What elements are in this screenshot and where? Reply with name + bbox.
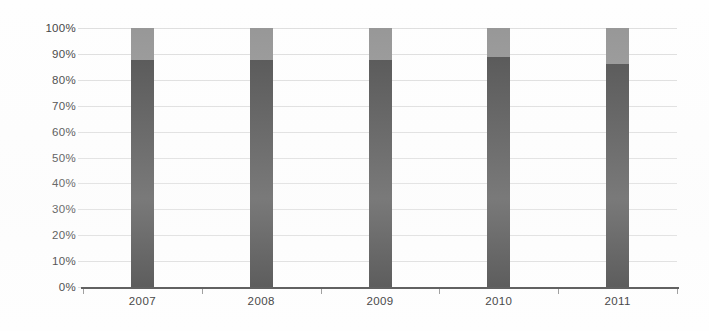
y-axis-tick-label: 80%	[24, 74, 76, 86]
y-axis-tick-label: 0%	[24, 281, 76, 293]
chart-container: 0%10%20%30%40%50%60%70%80%90%100% 200720…	[0, 0, 709, 331]
x-axis-tick	[558, 289, 559, 294]
plot-area	[83, 28, 677, 287]
bar-column	[487, 28, 510, 287]
x-axis-tick	[202, 289, 203, 294]
x-axis-tick-label: 2011	[578, 295, 658, 307]
y-axis-tick-label: 20%	[24, 229, 76, 241]
bar-column	[250, 28, 273, 287]
x-axis-tick	[677, 289, 678, 294]
x-axis-line	[81, 287, 679, 289]
y-axis-tick-label: 10%	[24, 255, 76, 267]
x-axis-tick-label: 2007	[102, 295, 182, 307]
bar-segment-upper	[487, 28, 510, 56]
x-axis-tick	[321, 289, 322, 294]
y-axis-tick-label: 100%	[24, 22, 76, 34]
y-axis-tick-label: 60%	[24, 126, 76, 138]
y-axis-tick-label: 40%	[24, 177, 76, 189]
bar-column	[606, 28, 629, 287]
bar-segment-upper	[606, 28, 629, 64]
bar-segment-upper	[131, 28, 154, 60]
x-axis-tick	[439, 289, 440, 294]
y-axis-tick-label: 50%	[24, 152, 76, 164]
x-axis-tick-label: 2010	[459, 295, 539, 307]
x-axis-tick	[83, 289, 84, 294]
bar-segment-lower	[606, 64, 629, 287]
bar-segment-lower	[131, 60, 154, 287]
bar-segment-lower	[369, 60, 392, 287]
y-axis-tick-label: 30%	[24, 203, 76, 215]
y-axis-tick-label: 90%	[24, 48, 76, 60]
bar-column	[131, 28, 154, 287]
bar-segment-upper	[250, 28, 273, 60]
bar-segment-lower	[250, 60, 273, 287]
bar-segment-lower	[487, 57, 510, 288]
bar-segment-upper	[369, 28, 392, 60]
y-axis-tick-label: 70%	[24, 100, 76, 112]
x-axis-tick-label: 2009	[340, 295, 420, 307]
bar-column	[369, 28, 392, 287]
x-axis-tick-label: 2008	[221, 295, 301, 307]
